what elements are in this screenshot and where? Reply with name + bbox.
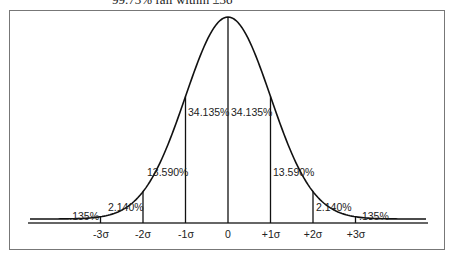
- tick-label-m2: -2σ: [135, 228, 151, 240]
- pct-label-tail-left: .135%: [69, 210, 99, 222]
- tick-label-p1: +1σ: [262, 228, 281, 240]
- tick-label-m3: -3σ: [93, 228, 109, 240]
- tick-label-m1: -1σ: [178, 228, 194, 240]
- pct-label-m2-m1: 13.590%: [147, 166, 188, 178]
- tick-label-p3: +3σ: [347, 228, 366, 240]
- pct-label-0-p1: 34.135%: [231, 106, 272, 118]
- normal-distribution-chart: .135% 2.140% 13.590% 34.135% 34.135% 13.…: [0, 0, 455, 255]
- pct-label-tail-right: .135%: [359, 210, 389, 222]
- pct-label-p2-p3: 2.140%: [316, 201, 352, 213]
- pct-label-m1-0: 34.135%: [188, 106, 229, 118]
- sigma-lines: [101, 17, 356, 223]
- tick-label-p2: +2σ: [304, 228, 323, 240]
- pct-label-p1-p2: 13.590%: [273, 166, 314, 178]
- pct-label-m3-m2: 2.140%: [108, 201, 144, 213]
- tick-label-0: 0: [225, 228, 231, 240]
